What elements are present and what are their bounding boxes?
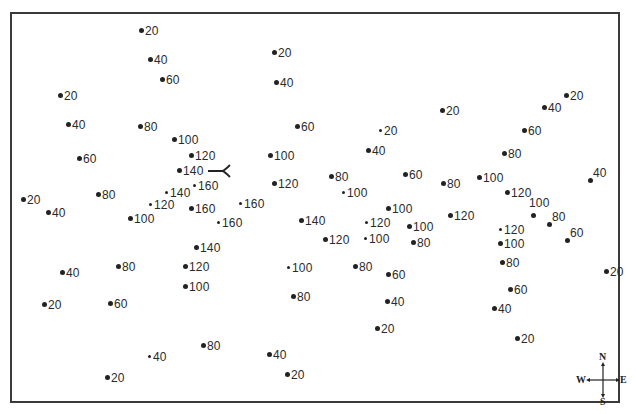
point-dot-icon	[440, 108, 445, 113]
elevation-label: 20	[27, 193, 41, 207]
elevation-label: 40	[280, 76, 294, 90]
elevation-label: 20	[570, 89, 584, 103]
compass-west: W	[576, 374, 586, 385]
elevation-label: 20	[278, 46, 292, 60]
elevation-label: 20	[521, 332, 535, 346]
elevation-label: 120	[154, 198, 175, 212]
point-dot-icon	[148, 57, 153, 62]
elevation-label: 100	[413, 220, 434, 234]
elevation-label: 20	[610, 265, 624, 279]
point-dot-icon	[268, 153, 273, 158]
elevation-label: 160	[244, 197, 265, 211]
point-dot-icon	[386, 206, 391, 211]
point-dot-icon	[139, 28, 144, 33]
elevation-label: 140	[200, 241, 221, 255]
point-dot-icon	[564, 93, 569, 98]
elevation-label: 100	[504, 237, 525, 251]
point-dot-icon	[531, 213, 536, 218]
elevation-label: 100	[189, 280, 210, 294]
elevation-label: 40	[548, 101, 562, 115]
point-dot-icon	[189, 153, 194, 158]
elevation-label: 20	[111, 371, 125, 385]
elevation-label: 40	[66, 266, 80, 280]
point-dot-icon	[342, 191, 345, 194]
elevation-label: 120	[370, 216, 391, 230]
point-dot-icon	[160, 77, 165, 82]
elevation-label: 80	[417, 236, 431, 250]
compass-north: N	[599, 351, 606, 362]
point-dot-icon	[96, 192, 101, 197]
point-dot-icon	[411, 240, 416, 245]
point-dot-icon	[498, 241, 503, 246]
point-dot-icon	[108, 301, 113, 306]
elevation-label: 80	[122, 260, 136, 274]
elevation-label: 20	[384, 124, 398, 138]
point-dot-icon	[128, 216, 133, 221]
elevation-label: 60	[301, 120, 315, 134]
point-dot-icon	[274, 80, 279, 85]
point-dot-icon	[149, 203, 152, 206]
elevation-label: 80	[447, 177, 461, 191]
elevation-label: 20	[64, 89, 78, 103]
point-dot-icon	[508, 287, 513, 292]
point-dot-icon	[172, 137, 177, 142]
elevation-label: 100	[483, 171, 504, 185]
point-dot-icon	[385, 299, 390, 304]
elevation-label: 100	[292, 261, 313, 275]
point-dot-icon	[515, 336, 520, 341]
point-dot-icon	[441, 181, 446, 186]
point-dot-icon	[116, 264, 121, 269]
point-dot-icon	[58, 93, 63, 98]
point-dot-icon	[194, 245, 199, 250]
elevation-label: 80	[359, 260, 373, 274]
elevation-label: 40	[273, 348, 287, 362]
elevation-label: 160	[222, 216, 243, 230]
elevation-label: 40	[498, 302, 512, 316]
point-dot-icon	[77, 156, 82, 161]
compass-east: E	[620, 374, 627, 385]
point-dot-icon	[492, 306, 497, 311]
elevation-label: 80	[144, 120, 158, 134]
point-dot-icon	[189, 206, 194, 211]
elevation-label: 160	[195, 202, 216, 216]
point-dot-icon	[505, 190, 510, 195]
elevation-label: 120	[195, 149, 216, 163]
point-dot-icon	[239, 202, 242, 205]
point-dot-icon	[148, 355, 151, 358]
point-dot-icon	[502, 151, 507, 156]
elevation-label: 20	[446, 104, 460, 118]
point-dot-icon	[272, 50, 277, 55]
point-dot-icon	[299, 218, 304, 223]
point-dot-icon	[291, 294, 296, 299]
point-dot-icon	[379, 129, 382, 132]
point-dot-icon	[193, 184, 196, 187]
point-dot-icon	[21, 197, 26, 202]
point-dot-icon	[177, 168, 182, 173]
point-dot-icon	[267, 352, 272, 357]
elevation-label: 40	[593, 166, 607, 180]
elevation-label: 140	[183, 164, 204, 178]
elevation-label: 60	[409, 168, 423, 182]
elevation-label: 100	[529, 196, 550, 210]
point-dot-icon	[287, 266, 290, 269]
elevation-label: 60	[570, 226, 584, 240]
elevation-label: 80	[102, 188, 116, 202]
elevation-label: 20	[291, 368, 305, 382]
point-dot-icon	[403, 172, 408, 177]
point-dot-icon	[323, 237, 328, 242]
compass-south: S	[600, 396, 606, 407]
elevation-label: 60	[166, 73, 180, 87]
elevation-label: 60	[528, 124, 542, 138]
elevation-label: 140	[305, 214, 326, 228]
point-dot-icon	[604, 269, 609, 274]
point-dot-icon	[46, 210, 51, 215]
point-dot-icon	[272, 181, 277, 186]
elevation-label: 60	[114, 297, 128, 311]
elevation-label: 40	[391, 295, 405, 309]
point-dot-icon	[42, 302, 47, 307]
elevation-label: 80	[508, 147, 522, 161]
compass-rose: N S E W	[578, 354, 628, 406]
point-dot-icon	[353, 264, 358, 269]
elevation-label: 120	[278, 177, 299, 191]
point-dot-icon	[386, 272, 391, 277]
